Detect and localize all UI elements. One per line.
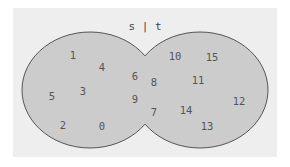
element-label-0: 0: [99, 120, 105, 132]
diagram-title: s | t: [128, 20, 161, 33]
element-label-15: 15: [206, 51, 219, 63]
element-label-9: 9: [132, 93, 138, 105]
element-label-1: 1: [70, 49, 76, 61]
element-label-7: 7: [151, 106, 157, 118]
element-label-6: 6: [132, 70, 138, 82]
element-label-14: 14: [180, 104, 193, 116]
element-label-4: 4: [99, 61, 105, 73]
element-label-10: 10: [169, 50, 182, 62]
element-label-12: 12: [233, 95, 246, 107]
element-label-11: 11: [192, 74, 205, 86]
venn-diagram: s | t 1468101511539127142013: [0, 0, 290, 167]
element-label-8: 8: [151, 76, 157, 88]
element-label-5: 5: [49, 90, 55, 102]
element-label-3: 3: [80, 85, 86, 97]
element-label-13: 13: [201, 120, 214, 132]
element-label-2: 2: [60, 119, 66, 131]
